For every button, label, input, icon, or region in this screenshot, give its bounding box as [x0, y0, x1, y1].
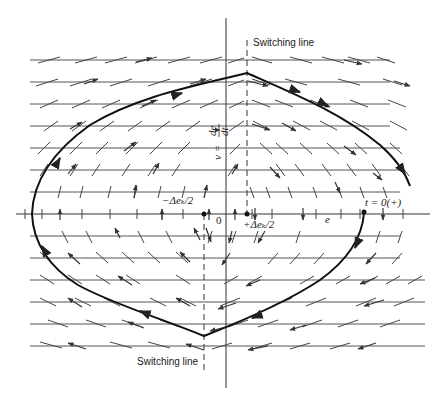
origin-label: 0: [216, 214, 222, 226]
phase-plane-figure: Switching line Switching line −Δeₖ/2 +Δe…: [0, 0, 444, 401]
switching-line-top-label: Switching line: [253, 37, 315, 48]
svg-text:v =: v =: [211, 145, 223, 160]
field-arrows: [60, 58, 410, 350]
minus-half-deadband-point: [202, 212, 207, 217]
slope-marks-lower-right: [208, 231, 422, 349]
plus-half-deadband-label: +Δeₖ/2: [243, 218, 275, 230]
start-point-label: t = 0(+): [365, 196, 402, 209]
svg-text:de: de: [206, 126, 218, 137]
phase-plane-svg: Switching line Switching line −Δeₖ/2 +Δe…: [0, 0, 444, 401]
svg-text:dt: dt: [218, 127, 230, 137]
switching-line-bottom-label: Switching line: [137, 356, 199, 367]
minus-half-deadband-label: −Δeₖ/2: [162, 194, 194, 206]
start-point: [362, 210, 367, 215]
slope-marks-lower-left: [40, 231, 196, 348]
trajectory-curve: [32, 73, 410, 336]
slope-marks-upper-right: [250, 57, 409, 198]
e-axis-label: e: [325, 213, 330, 225]
plus-half-deadband-point: [245, 212, 250, 217]
